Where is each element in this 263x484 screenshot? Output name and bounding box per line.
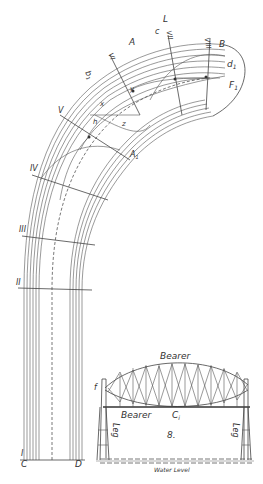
svg-text:C: C xyxy=(21,459,28,469)
svg-text:Bearer: Bearer xyxy=(121,410,152,420)
svg-text:B: B xyxy=(219,39,225,49)
point xyxy=(205,76,208,79)
svg-text:b1: b1 xyxy=(82,69,95,81)
curved-column-bundle xyxy=(24,44,225,460)
svg-text:IV: IV xyxy=(30,164,38,173)
svg-text:V: V xyxy=(58,106,64,115)
svg-text:Bearer: Bearer xyxy=(160,351,191,361)
svg-text:8.: 8. xyxy=(167,430,176,440)
bridge-labels: Bearer Bearer Ci f Leg Leg 8. Water Leve… xyxy=(94,351,240,473)
svg-text:A: A xyxy=(128,37,135,47)
svg-text:F1: F1 xyxy=(229,80,238,91)
svg-text:c: c xyxy=(155,27,160,36)
svg-text:f: f xyxy=(94,383,98,392)
construction-arcs xyxy=(40,54,225,200)
svg-text:d1: d1 xyxy=(227,59,237,70)
svg-text:I: I xyxy=(21,449,24,458)
svg-text:D: D xyxy=(75,459,82,469)
svg-text:h: h xyxy=(93,118,97,126)
svg-text:x: x xyxy=(99,100,105,108)
svg-text:Leg: Leg xyxy=(111,423,120,437)
svg-text:A1: A1 xyxy=(129,150,139,160)
svg-text:VIII: VIII xyxy=(203,37,213,49)
point xyxy=(174,78,177,81)
svg-text:Water Level: Water Level xyxy=(154,466,190,473)
technical-diagram: L c VII VIII A B d1 F1 VI b1 V y x h z A… xyxy=(0,0,263,484)
svg-text:II: II xyxy=(16,278,21,287)
svg-text:z: z xyxy=(121,120,126,128)
svg-text:L: L xyxy=(163,14,168,24)
svg-text:III: III xyxy=(19,225,27,234)
cross-section-lines xyxy=(18,35,210,460)
point xyxy=(88,136,91,139)
svg-text:VI: VI xyxy=(106,52,116,61)
svg-text:Ci: Ci xyxy=(172,410,180,421)
svg-text:y: y xyxy=(129,85,135,93)
svg-text:Leg: Leg xyxy=(231,423,240,437)
arch-labels: L c VII VIII A B d1 F1 VI b1 V y x h z A… xyxy=(16,14,238,469)
svg-text:VII: VII xyxy=(165,30,174,40)
